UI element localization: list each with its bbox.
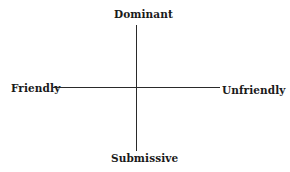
- horizontal-axis-line: [53, 87, 220, 88]
- label-unfriendly: Unfriendly: [222, 84, 286, 96]
- label-submissive: Submissive: [111, 152, 178, 164]
- label-friendly: Friendly: [11, 82, 60, 94]
- vertical-axis-line: [136, 25, 137, 151]
- label-dominant: Dominant: [114, 8, 173, 20]
